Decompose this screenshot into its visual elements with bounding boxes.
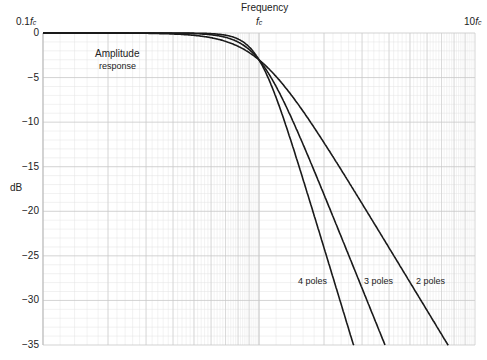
y-axis-title: dB bbox=[10, 182, 22, 193]
curves bbox=[43, 33, 448, 345]
x-tick-num: 0.1 bbox=[16, 16, 30, 27]
legend-3-poles: 3 poles bbox=[364, 276, 393, 286]
curve-4-poles bbox=[43, 33, 354, 345]
x-tick-sub: c bbox=[259, 19, 263, 26]
x-tick-label-fc: fc bbox=[256, 16, 262, 27]
x-tick-num: 10 bbox=[464, 16, 475, 27]
x-tick-sub: c bbox=[478, 19, 482, 26]
x-tick-label-10fc: 10fc bbox=[464, 16, 481, 27]
y-tick-minus20: −20 bbox=[9, 205, 39, 216]
y-tick-minus10: −10 bbox=[9, 116, 39, 127]
grid-major bbox=[43, 33, 475, 345]
y-tick-minus15: −15 bbox=[9, 161, 39, 172]
legend-4-poles: 4 poles bbox=[298, 276, 327, 286]
x-tick-sub: c bbox=[33, 19, 37, 26]
legend-2-poles: 2 poles bbox=[416, 276, 445, 286]
y-tick-minus30: −30 bbox=[9, 294, 39, 305]
chart-canvas bbox=[0, 0, 487, 360]
curve-2-poles bbox=[43, 33, 448, 345]
annotation-amplitude: Amplitude bbox=[95, 48, 139, 59]
y-tick-minus35: −35 bbox=[9, 339, 39, 350]
y-tick-0: 0 bbox=[9, 27, 39, 38]
annotation-response: response bbox=[99, 61, 136, 71]
x-axis-title: Frequency bbox=[241, 2, 288, 13]
y-tick-minus25: −25 bbox=[9, 250, 39, 261]
x-tick-label-0.1fc: 0.1fc bbox=[16, 16, 36, 27]
y-tick-minus5: −5 bbox=[9, 72, 39, 83]
